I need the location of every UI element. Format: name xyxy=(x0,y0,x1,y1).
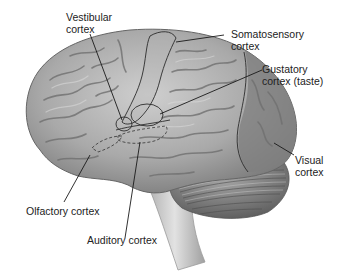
olfactory-cortex-label: Olfactory cortex xyxy=(26,206,100,218)
auditory-cortex-label: Auditory cortex xyxy=(87,235,157,247)
visual-cortex-label: Visual cortex xyxy=(295,155,324,178)
vestibular-cortex-label: Vestibular cortex xyxy=(66,12,112,35)
brain-diagram: Vestibular cortex Somatosensory cortex G… xyxy=(0,0,343,279)
somatosensory-cortex-label: Somatosensory cortex xyxy=(231,29,304,52)
gustatory-cortex-label: Gustatory cortex (taste) xyxy=(262,64,323,87)
